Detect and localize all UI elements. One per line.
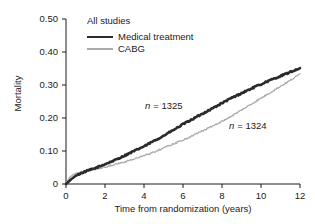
y-axis-ticks	[62, 19, 66, 184]
ytick-label-5: 0	[22, 179, 58, 189]
panel-title: All studies	[87, 15, 130, 26]
chart-figure: 0.50 0.40 0.30 0.20 0.10 0 0 2 4 6 8 10 …	[0, 0, 315, 224]
xtick-label-6: 12	[286, 191, 314, 201]
ytick-label-0: 0.50	[22, 14, 58, 24]
xtick-label-0: 0	[52, 191, 80, 201]
annotation-n-symbol-medical: n	[145, 100, 150, 111]
x-axis-ticks	[66, 184, 300, 188]
xtick-label-1: 2	[91, 191, 119, 201]
legend: Medical treatment CABG	[87, 31, 194, 55]
legend-swatch-medical-treatment	[87, 36, 113, 39]
xtick-label-4: 8	[208, 191, 236, 201]
legend-swatch-cabg	[87, 48, 113, 49]
annotation-n-value-medical: = 1325	[153, 100, 182, 111]
legend-item-medical-treatment: Medical treatment	[87, 31, 194, 43]
xtick-label-5: 10	[247, 191, 275, 201]
ytick-label-3: 0.20	[22, 113, 58, 123]
legend-label-cabg: CABG	[118, 44, 145, 54]
ytick-label-4: 0.10	[22, 146, 58, 156]
legend-item-cabg: CABG	[87, 43, 194, 55]
annotation-n-medical-treatment: n= 1325	[145, 100, 183, 111]
xtick-label-2: 4	[130, 191, 158, 201]
annotation-n-symbol-cabg: n	[229, 120, 234, 131]
ytick-label-1: 0.40	[22, 47, 58, 57]
annotation-n-value-cabg: = 1324	[237, 120, 266, 131]
xtick-label-3: 6	[169, 191, 197, 201]
annotation-n-cabg: n= 1324	[229, 120, 267, 131]
y-axis-label: Mortality	[12, 59, 23, 129]
legend-label-medical-treatment: Medical treatment	[118, 32, 194, 42]
x-axis-label: Time from randomization (years)	[66, 203, 300, 214]
ytick-label-2: 0.30	[22, 80, 58, 90]
